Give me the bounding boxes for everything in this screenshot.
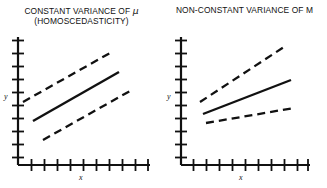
panel-homoscedastic: CONSTANT VARIANCE OF μ (HOMOSCEDASTICITY…: [0, 0, 163, 188]
plot-heteroscedastic: y x: [163, 0, 326, 188]
y-axis-label: y: [3, 92, 8, 101]
x-axis-label: x: [238, 173, 243, 182]
regression-solid-line: [33, 72, 119, 121]
lower-bound-dashed-line: [206, 108, 294, 123]
panel-heteroscedastic: NON-CONSTANT VARIANCE OF M: [163, 0, 326, 188]
regression-solid-line: [203, 80, 291, 114]
upper-bound-dashed-line: [23, 53, 110, 102]
lower-bound-dashed-line: [43, 91, 130, 140]
figure-container: CONSTANT VARIANCE OF μ (HOMOSCEDASTICITY…: [0, 0, 327, 188]
upper-bound-dashed-line: [200, 45, 287, 102]
x-axis-label: x: [78, 173, 83, 182]
plot-homoscedastic: y x: [0, 0, 163, 188]
y-axis-label: y: [166, 92, 171, 101]
